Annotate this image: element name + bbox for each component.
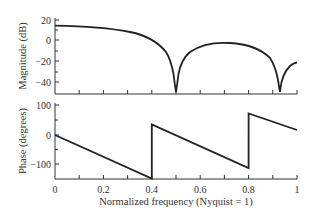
- mag-y-ticks: [55, 20, 59, 82]
- x-tick-0.4: 0.4: [146, 184, 159, 195]
- mag-tick-neg20: −20: [35, 56, 51, 67]
- magnitude-curve: [55, 26, 297, 92]
- phase-tick-0: 0: [46, 130, 51, 141]
- x-tick-0.6: 0.6: [194, 184, 207, 195]
- phase-curve: [55, 114, 297, 179]
- mag-tick-neg40: −40: [35, 77, 51, 88]
- bode-plot: 20 0 −20 −40 Magnitude (dB): [0, 0, 313, 218]
- x-tick-0: 0: [53, 184, 58, 195]
- x-tick-1: 1: [295, 184, 300, 195]
- phase-x-ticks: [79, 175, 297, 179]
- x-tick-0.2: 0.2: [97, 184, 110, 195]
- magnitude-plot: 20 0 −20 −40 Magnitude (dB): [17, 15, 297, 95]
- mag-y-label: Magnitude (dB): [17, 22, 29, 90]
- phase-plot: 100 0 −100 Phase (degrees) 0 0.2 0.4 0.6…: [17, 100, 300, 209]
- phase-y-label: Phase (degrees): [17, 107, 29, 174]
- mag-tick-0: 0: [46, 35, 51, 46]
- mag-tick-20: 20: [41, 15, 51, 26]
- x-tick-0.8: 0.8: [242, 184, 255, 195]
- phase-tick-100: 100: [36, 100, 51, 111]
- phase-tick-neg100: −100: [30, 159, 51, 170]
- mag-x-ticks: [79, 90, 297, 94]
- x-axis-label: Normalized frequency (Nyquist = 1): [99, 196, 253, 208]
